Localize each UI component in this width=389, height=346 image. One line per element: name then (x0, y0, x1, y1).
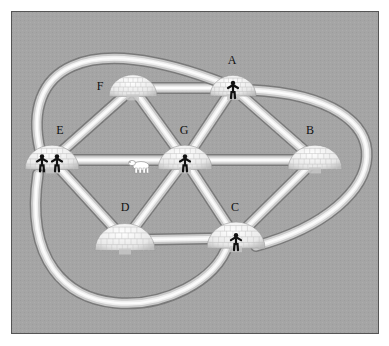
node-label-c: C (231, 200, 239, 214)
node-label-a: A (228, 53, 237, 67)
node-label-b: B (306, 123, 314, 137)
node-label-f: F (97, 79, 104, 93)
node-label-d: D (121, 200, 130, 214)
igloo-graph-diagram: ABCDEFG (0, 0, 389, 346)
node-label-g: G (180, 123, 189, 137)
node-label-e: E (56, 123, 63, 137)
